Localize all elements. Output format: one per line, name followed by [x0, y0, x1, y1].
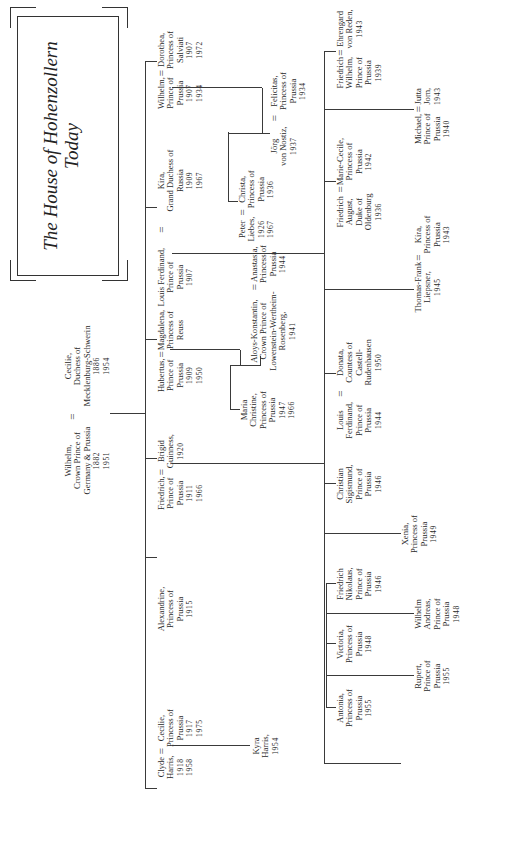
- gen1-couple: Wilhelm, Crown Prince of Germany & Pruss…: [64, 326, 111, 495]
- connector-line: [172, 253, 324, 254]
- person-wilhelm-crown-prince: Wilhelm, Crown Prince of Germany & Pruss…: [64, 427, 111, 495]
- marriage-symbol: =: [157, 226, 166, 234]
- person-kira-princess: Kira, Princess of Prussia 1943: [414, 216, 452, 254]
- person-aloys-konstantin: Aloys-Konstantin, Crown Prince of Lowens…: [250, 291, 297, 371]
- connector-line: [145, 207, 157, 208]
- person-rupert: Rupert, Prince of Prussia 1955: [414, 660, 452, 691]
- connector-line: [324, 289, 414, 290]
- person-maria-christine: Maria Christine, Princess of Prussia 194…: [240, 391, 296, 429]
- connector-line: [324, 109, 414, 110]
- person-felicitas: Felicitas, Princess of Prussia 1934: [270, 72, 308, 110]
- connector-line: [326, 613, 414, 614]
- connector-line: [326, 584, 327, 708]
- person-jutta: Jutta Jorn, 1943: [414, 87, 442, 105]
- person-donata: Donata, Countess of Castell- Rudenhausen…: [336, 339, 383, 385]
- person-michael: Michael, Prince of Prussia 1940: [414, 113, 452, 144]
- marriage-symbol: =: [238, 208, 247, 216]
- connector-line: [262, 88, 263, 134]
- person-friedrich-wilhelm: Friedrich Wilhelm, Prince of Prussia 193…: [336, 57, 383, 89]
- couple-louis-ferdinand-jr-donata: Louis Ferdinand, Prince of Prussia 1944 …: [336, 339, 383, 439]
- person-hubertus: Hubertus, Prince of Prussia 1909 1950: [157, 358, 204, 392]
- connector-line: [326, 643, 336, 644]
- marriage-symbol: =: [414, 105, 423, 113]
- connector-line: [230, 366, 231, 410]
- connector-line: [228, 133, 262, 134]
- marriage-symbol: =: [414, 254, 423, 262]
- marriage-symbol: =: [157, 468, 166, 476]
- connector-line: [326, 583, 336, 584]
- page-title: The House of Hohenzollern Today: [40, 17, 82, 275]
- marriage-symbol: =: [250, 283, 259, 291]
- title-frame: The House of Hohenzollern Today: [0, 0, 140, 294]
- person-louis-ferdinand-jr: Louis Ferdinand, Prince of Prussia 1944: [336, 402, 383, 439]
- person-clyde-harris: Clyde Harris, 1918 1958: [157, 755, 195, 779]
- connector-line: [324, 763, 401, 764]
- connector-line: [324, 52, 325, 764]
- connector-line: [324, 484, 325, 534]
- person-wilhelm-andreas: Wilhelm Andreas, Prince of Prussia 1948: [414, 598, 461, 629]
- connector-line: [240, 350, 241, 366]
- couple-louis-ferdinand-kira: Louis Ferdinand, Prince of Prussia 1907 …: [157, 150, 204, 307]
- person-cecilie-duchess: Cecilie, Duchess of Mecklenburg-Schwerin…: [64, 326, 111, 407]
- marriage-symbol: =: [157, 747, 166, 755]
- couple-jorg-felicitas: Jörg von Nostiz, 1937 = Felicitas, Princ…: [270, 72, 308, 166]
- connector-line: [228, 132, 229, 202]
- connector-line: [324, 533, 401, 534]
- marriage-symbol: =: [68, 412, 77, 420]
- couple-thomas-frank-kira: Thomas-Frank Liepsner, 1945 = Kira, Prin…: [414, 216, 452, 313]
- person-victoria: Victoria, Princess of Prussia 1948: [336, 625, 374, 663]
- connector-line: [145, 557, 157, 558]
- family-tree-page: The House of Hohenzollern Today Wilhelm,…: [0, 0, 505, 854]
- person-xenia: Xenia, Princess of Prussia 1949: [401, 515, 439, 553]
- connector-line: [110, 413, 145, 414]
- title-line-1: The House of Hohenzollern: [40, 17, 61, 275]
- couple-aloys-anastasia: Aloys-Konstantin, Crown Prince of Lowens…: [250, 245, 297, 371]
- person-peter: Peter Liebes, 1926 1967: [238, 217, 276, 242]
- couple-friedrich-brigid: Friedrich, Prince of Prussia 1911 1966 =…: [157, 434, 204, 510]
- marriage-symbol: =: [157, 350, 166, 358]
- connector-line: [145, 788, 157, 789]
- person-kyra-harris: Kyra Harris, 1954: [252, 734, 280, 758]
- couple-hubertus-magdalena: Hubertus, Prince of Prussia 1909 1950 = …: [157, 310, 204, 392]
- person-thomas-frank: Thomas-Frank Liepsner, 1945: [414, 262, 442, 313]
- connector-line: [326, 707, 336, 708]
- person-wilhelm: Wilhelm, Prince of Prussia 1907 1934: [157, 77, 204, 109]
- marriage-symbol: =: [336, 390, 345, 398]
- couple-clyde-cecilie: Clyde Harris, 1918 1958 = Cecilie, Princ…: [157, 709, 204, 779]
- title-line-2: Today: [61, 17, 82, 275]
- connector-line: [170, 349, 240, 350]
- person-friedrich-august: Friedrich August, Duke of Oldenburg 1936: [336, 194, 383, 231]
- couple-friedrich-august-marie-cecile: Friedrich August, Duke of Oldenburg 1936…: [336, 138, 383, 230]
- person-jorg: Jörg von Nostiz, 1937: [270, 126, 298, 166]
- marriage-symbol: =: [336, 49, 345, 57]
- person-friedrich: Friedrich, Prince of Prussia 1911 1966: [157, 476, 204, 510]
- person-antonia: Antonia, Princess of Prussia 1955: [336, 689, 374, 727]
- person-ehrengard: Ehrengard von Reden, 1943: [336, 9, 364, 48]
- person-kira-grand-duchess: Kira, Grand Duchess of Russia 1909 1967: [157, 150, 204, 212]
- person-marie-cecile: Marie-Cecile, Princess of Prussia 1942: [336, 138, 374, 185]
- title-box: The House of Hohenzollern Today: [17, 16, 119, 276]
- couple-wilhelm-dorothea: Wilhelm, Prince of Prussia 1907 1934 = D…: [157, 31, 204, 109]
- marriage-symbol: =: [270, 114, 279, 122]
- couple-michael-jutta: Michael, Prince of Prussia 1940 = Jutta …: [414, 87, 452, 144]
- connector-line: [172, 463, 324, 464]
- person-dorothea: Dorothea, Princess of Salviati 1907 1972: [157, 31, 204, 69]
- person-louis-ferdinand: Louis Ferdinand, Prince of Prussia 1907: [157, 248, 195, 307]
- connector-line: [145, 62, 146, 789]
- marriage-symbol: =: [157, 69, 166, 77]
- couple-peter-christa: Peter Liebes, 1926 1967 = Christa, Princ…: [238, 170, 276, 241]
- connector-line: [326, 675, 414, 676]
- person-christa: Christa, Princess of Prussia 1936: [238, 170, 276, 208]
- connector-line: [172, 87, 262, 88]
- connector-line: [172, 745, 250, 746]
- couple-friedrich-wilhelm-ehrengard: Friedrich Wilhelm, Prince of Prussia 193…: [336, 9, 383, 88]
- person-anastasia: Anastasia, Princess of Prussia 1944: [250, 245, 288, 283]
- connector-line: [262, 133, 270, 134]
- marriage-symbol: =: [336, 185, 345, 193]
- person-magdalena: Magdalena, Princess of Reuss: [157, 310, 185, 350]
- person-cecilie-princess: Cecilie, Princess of Prussia 1917 1975: [157, 709, 204, 747]
- person-alexandrine: Alexandrine, Princess of Prussia 1915: [157, 587, 195, 632]
- person-christian-sigismund: Christian Sigismund, Prince of Prussia 1…: [336, 465, 383, 504]
- person-friedrich-nikolaus: Friedrich Nikolaus, Prince of Prussia 19…: [336, 567, 383, 600]
